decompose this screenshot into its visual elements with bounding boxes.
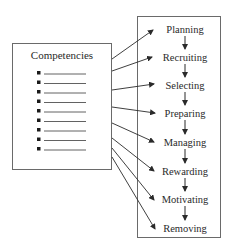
competencies-hr-process-diagram: Competencies Planning Recruiting Selecti… — [0, 0, 233, 251]
stage-preparing: Preparing — [165, 108, 207, 119]
stage-planning: Planning — [166, 24, 204, 35]
stage-recruiting: Recruiting — [163, 52, 208, 63]
competencies-title: Competencies — [31, 49, 93, 61]
stage-rewarding: Rewarding — [162, 166, 209, 177]
bullet-icon — [37, 119, 41, 123]
bullet-icon — [37, 71, 41, 75]
bullet-icon — [37, 147, 41, 151]
stage-motivating: Motivating — [162, 194, 209, 205]
stage-managing: Managing — [164, 137, 207, 148]
competencies-box: Competencies — [13, 44, 112, 170]
bullet-icon — [37, 109, 41, 113]
stage-removing: Removing — [163, 223, 207, 234]
bullet-icon — [37, 81, 41, 85]
bullet-icon — [37, 128, 41, 132]
stage-selecting: Selecting — [165, 80, 205, 91]
bullet-icon — [37, 138, 41, 142]
bullet-icon — [37, 90, 41, 94]
hr-process-box: Planning Recruiting Selecting Preparing … — [138, 17, 221, 238]
bullet-icon — [37, 100, 41, 104]
